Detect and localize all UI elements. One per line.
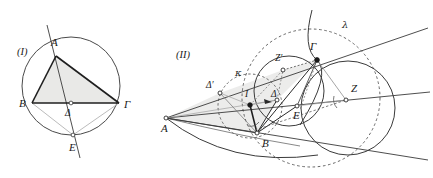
label-point-A-fig1: Α xyxy=(50,36,58,48)
label-point-Deltaprime-fig2: Δ′ xyxy=(205,80,215,90)
label-point-Epsilon-fig2: Ε xyxy=(292,109,300,121)
label-point-Delta-fig2: Δ xyxy=(270,89,277,99)
panel-caption-one: (I) xyxy=(17,46,28,58)
label-point-Gamma-fig2: Γ xyxy=(309,40,317,52)
circle-right-solid xyxy=(301,61,395,155)
point-marker-delta xyxy=(69,101,73,105)
label-circle-kappa: κ xyxy=(234,67,242,78)
triangle-ABG-fill xyxy=(32,56,119,103)
marker-point-Deltaprime-fig2 xyxy=(218,91,222,95)
label-point-Epsilon-fig1: Ε xyxy=(68,141,76,153)
panel-caption-two: (II) xyxy=(176,49,190,61)
marker-point-Z-fig2 xyxy=(344,98,348,102)
label-point-Gamma-fig1: Γ xyxy=(123,98,131,110)
marker-point-Zprime-fig2 xyxy=(281,68,285,72)
label-point-Delta-fig1: Δ xyxy=(64,108,71,118)
marker-point-B-fig2 xyxy=(255,131,259,135)
marker-point-I-fig2 xyxy=(248,103,253,108)
label-point-Z-fig2: Ζ xyxy=(351,82,358,94)
figure-canvas: (I) Α Β Γ Δ Ε xyxy=(0,0,433,178)
point-marker-epsilon xyxy=(71,133,75,137)
label-point-B-fig1: Β xyxy=(19,97,26,109)
marker-point-Gamma-fig2 xyxy=(315,58,320,63)
figure-one-group: (I) Α Β Γ Δ Ε xyxy=(17,25,131,158)
label-point-A-fig2: Α xyxy=(160,122,168,134)
label-point-B-fig2: Β xyxy=(262,137,269,149)
angle-arc-at-Z xyxy=(334,96,337,108)
marker-point-Epsilon-fig2 xyxy=(295,104,299,108)
label-circle-lambda: λ xyxy=(341,19,348,30)
figure-two-group: (II) Α Β Γ Δ Δ′ Ε Ζ Ζ′ Ι κ λ xyxy=(160,10,430,167)
chord-G-E xyxy=(73,103,119,135)
geometry-figure-sheet: (I) Α Β Γ Δ Ε xyxy=(0,0,433,178)
marker-point-A-fig2 xyxy=(164,116,168,120)
label-point-Zprime-fig2: Ζ′ xyxy=(275,53,283,63)
